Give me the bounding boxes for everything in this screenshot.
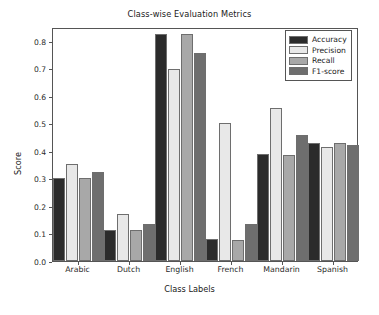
legend-label: Accuracy — [312, 35, 347, 44]
bar[interactable] — [270, 108, 282, 261]
y-tick-label: 0.4 — [0, 147, 46, 156]
y-tick-label: 0.8 — [0, 37, 46, 46]
bar-group — [53, 29, 104, 261]
x-tick-label: Dutch — [117, 265, 140, 274]
legend-swatch-icon — [289, 67, 308, 75]
bar[interactable] — [257, 154, 269, 261]
x-tick-label: French — [218, 265, 244, 274]
bar[interactable] — [155, 34, 167, 261]
x-tick-label: Arabic — [65, 265, 90, 274]
bar[interactable] — [79, 178, 91, 261]
legend-swatch-icon — [289, 36, 308, 44]
legend-swatch-icon — [289, 57, 308, 65]
bar-group — [155, 29, 206, 261]
y-tick-label: 0.3 — [0, 175, 46, 184]
bar[interactable] — [245, 224, 257, 261]
bar[interactable] — [334, 143, 346, 261]
y-tick-label: 0.6 — [0, 92, 46, 101]
x-tick-mark — [78, 262, 79, 265]
x-tick-label: English — [165, 265, 193, 274]
bar[interactable] — [66, 164, 78, 261]
bar[interactable] — [117, 214, 129, 261]
legend: AccuracyPrecisionRecallF1-score — [285, 30, 352, 81]
y-tick-mark — [49, 262, 52, 263]
bar-group — [206, 29, 257, 261]
bar[interactable] — [283, 155, 295, 261]
chart-title: Class-wise Evaluation Metrics — [0, 9, 379, 19]
legend-item-recall[interactable]: Recall — [289, 56, 347, 66]
bar[interactable] — [308, 143, 320, 261]
x-tick-mark — [129, 262, 130, 265]
x-tick-mark — [180, 262, 181, 265]
legend-label: Recall — [312, 56, 335, 65]
bar[interactable] — [347, 145, 359, 261]
bar[interactable] — [232, 240, 244, 261]
y-tick-label: 0.7 — [0, 65, 46, 74]
bar[interactable] — [92, 172, 104, 261]
legend-item-accuracy[interactable]: Accuracy — [289, 35, 347, 45]
legend-item-precision[interactable]: Precision — [289, 45, 347, 55]
legend-label: F1-score — [312, 67, 344, 76]
legend-swatch-icon — [289, 46, 308, 54]
bar[interactable] — [181, 34, 193, 261]
x-tick-mark — [231, 262, 232, 265]
bar[interactable] — [296, 135, 308, 261]
bar[interactable] — [194, 53, 206, 261]
bar[interactable] — [130, 230, 142, 261]
bar[interactable] — [321, 147, 333, 261]
legend-item-f1-score[interactable]: F1-score — [289, 66, 347, 76]
bar[interactable] — [206, 239, 218, 261]
y-tick-label: 0.0 — [0, 258, 46, 267]
bar[interactable] — [104, 230, 116, 261]
legend-label: Precision — [312, 46, 346, 55]
y-tick-label: 0.2 — [0, 202, 46, 211]
figure: Class-wise Evaluation Metrics Score 0.00… — [0, 0, 379, 315]
bar-group — [104, 29, 155, 261]
y-tick-label: 0.1 — [0, 230, 46, 239]
x-tick-mark — [333, 262, 334, 265]
y-tick-label: 0.5 — [0, 120, 46, 129]
x-axis-label: Class Labels — [0, 284, 379, 294]
bar[interactable] — [143, 224, 155, 261]
x-tick-label: Mandarin — [263, 265, 300, 274]
x-tick-label: Spanish — [317, 265, 348, 274]
bar[interactable] — [168, 69, 180, 261]
bar[interactable] — [53, 178, 65, 261]
bar[interactable] — [219, 123, 231, 261]
x-tick-mark — [282, 262, 283, 265]
